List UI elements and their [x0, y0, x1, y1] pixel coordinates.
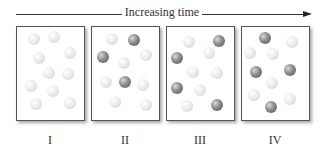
- dark-sphere-icon: [284, 64, 296, 76]
- light-sphere-icon: [140, 49, 152, 61]
- light-sphere-icon: [43, 67, 55, 79]
- dark-sphere-icon: [171, 52, 183, 64]
- light-sphere-icon: [48, 31, 60, 43]
- light-sphere-icon: [106, 33, 118, 45]
- panel-label: I: [16, 133, 84, 148]
- dark-sphere-icon: [97, 51, 109, 63]
- time-arrow-label: Increasing time: [124, 5, 200, 20]
- light-sphere-icon: [64, 47, 76, 59]
- arrow-head-icon: [303, 11, 312, 17]
- light-sphere-icon: [286, 36, 298, 48]
- light-sphere-icon: [284, 93, 296, 105]
- panel-II: [91, 26, 160, 121]
- dark-sphere-icon: [119, 76, 131, 88]
- dark-sphere-icon: [128, 34, 140, 46]
- light-sphere-icon: [248, 89, 260, 101]
- dark-sphere-icon: [171, 82, 183, 94]
- light-sphere-icon: [203, 47, 215, 59]
- light-sphere-icon: [109, 96, 121, 108]
- light-sphere-icon: [194, 84, 206, 96]
- panel-label: IV: [241, 133, 309, 148]
- panel-I: [16, 26, 85, 121]
- light-sphere-icon: [64, 97, 76, 109]
- light-sphere-icon: [28, 33, 40, 45]
- light-sphere-icon: [62, 68, 74, 80]
- light-sphere-icon: [47, 85, 59, 97]
- time-arrow-line-left: [16, 14, 122, 15]
- panel-III: [166, 26, 235, 121]
- light-sphere-icon: [30, 98, 42, 110]
- dark-sphere-icon: [211, 99, 223, 111]
- light-sphere-icon: [25, 80, 37, 92]
- light-sphere-icon: [211, 67, 223, 79]
- panel-label: II: [91, 133, 159, 148]
- light-sphere-icon: [181, 100, 193, 112]
- dark-sphere-icon: [250, 66, 262, 78]
- panel-IV: [241, 26, 310, 121]
- light-sphere-icon: [33, 52, 45, 64]
- time-arrow-line-right: [202, 14, 304, 15]
- dark-sphere-icon: [265, 101, 277, 113]
- panel-label: III: [166, 133, 234, 148]
- light-sphere-icon: [137, 79, 149, 91]
- light-sphere-icon: [100, 76, 112, 88]
- light-sphere-icon: [187, 66, 199, 78]
- light-sphere-icon: [244, 47, 256, 59]
- light-sphere-icon: [266, 77, 278, 89]
- light-sphere-icon: [140, 99, 152, 111]
- dark-sphere-icon: [259, 32, 271, 44]
- light-sphere-icon: [267, 48, 279, 60]
- dark-sphere-icon: [213, 35, 225, 47]
- light-sphere-icon: [118, 57, 130, 69]
- light-sphere-icon: [183, 36, 195, 48]
